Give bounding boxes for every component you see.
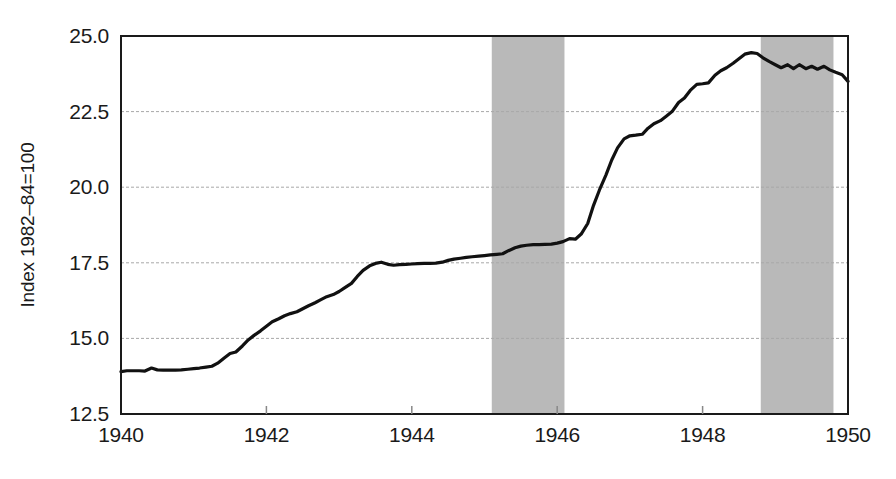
y-axis-title: Index 1982–84=100 xyxy=(17,142,38,307)
x-tick-label-1946: 1946 xyxy=(534,423,580,446)
y-tick-label-20: 20.0 xyxy=(69,175,109,198)
y-tick-label-12.5: 12.5 xyxy=(69,402,109,425)
x-tick-label-1940: 1940 xyxy=(98,423,144,446)
cpi-line-chart: 194019421944194619481950 12.515.017.520.… xyxy=(0,0,896,479)
y-tick-label-25: 25.0 xyxy=(69,24,109,47)
plot-background xyxy=(121,36,848,414)
y-tick-label-22.5: 22.5 xyxy=(69,100,109,123)
recession-band-2 xyxy=(761,36,834,414)
x-tick-label-1950: 1950 xyxy=(825,423,871,446)
x-tick-label-1948: 1948 xyxy=(680,423,726,446)
x-axis-tick-labels: 194019421944194619481950 xyxy=(98,423,871,446)
x-tick-label-1944: 1944 xyxy=(389,423,435,446)
y-tick-label-17.5: 17.5 xyxy=(69,251,109,274)
y-axis-tick-labels: 12.515.017.520.022.525.0 xyxy=(69,24,109,425)
x-tick-label-1942: 1942 xyxy=(244,423,290,446)
chart-figure: 194019421944194619481950 12.515.017.520.… xyxy=(0,0,896,479)
y-tick-label-15: 15.0 xyxy=(69,326,109,349)
recession-band-1 xyxy=(492,36,565,414)
